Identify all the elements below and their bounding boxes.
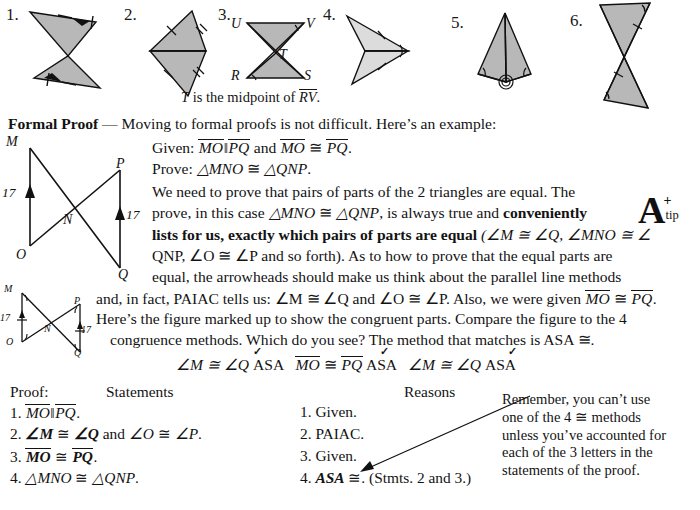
statement-3-segment-MO: MO	[25, 448, 51, 465]
formal-proof-intro: Moving to formal proofs is not difficult…	[122, 115, 497, 132]
marked-figure-length-right: 17	[81, 325, 91, 335]
asa-item3-AS: AS	[485, 356, 505, 373]
caption-point-T: T	[181, 89, 189, 105]
figure-2	[140, 8, 220, 100]
given-line: Given: MO‖PQ and MO ≅ PQ.	[152, 139, 352, 156]
main-figure-label-Q: Q	[118, 268, 128, 282]
given-period: .	[348, 139, 352, 156]
figure-5	[464, 10, 546, 90]
statement-4-triangle-QNP: △QNP	[92, 469, 135, 486]
para2-bold-conveniently: conveniently	[503, 204, 587, 221]
statement-1-num: 1.	[10, 404, 22, 421]
statement-4-triangle-MNO: △MNO	[25, 469, 71, 486]
statement-2-tail: .	[198, 425, 202, 442]
statements-header: Statements	[106, 383, 174, 401]
problem-number-3: 3.	[218, 6, 231, 23]
paragraph-line-8: congruence methods. Which do you see? Th…	[110, 332, 594, 348]
a-plus-tip-icon: A+tip	[638, 194, 687, 227]
remember-note-line-2: one of the 4 ≅ methods	[502, 409, 692, 427]
para6-end: .	[653, 290, 657, 307]
figure-3-caption: T is the midpoint of RV.	[181, 89, 320, 106]
formal-proof-heading-line: Formal Proof — Moving to formal proofs i…	[8, 116, 496, 132]
reason-1-num: 1.	[300, 403, 312, 420]
figure-3-label-S: S	[304, 69, 311, 83]
problem-number-1: 1.	[6, 6, 19, 23]
given-segment-PQ: PQ	[228, 139, 250, 156]
statement-4-tail: .	[135, 469, 139, 486]
para3-bold: lists for us, exactly which pairs of par…	[152, 226, 477, 243]
figure-3-label-V: V	[306, 17, 315, 31]
asa-item1-rest: SA	[264, 356, 283, 373]
statement-2-bold-angle-M: ∠M	[25, 425, 53, 442]
reason-row-1: 1. Given.	[300, 404, 357, 419]
asa-item2-segment-PQ: PQ	[341, 356, 363, 373]
main-figure-length-left: 17	[2, 186, 16, 200]
asa-item1-angles: ∠M ≅ ∠Q	[176, 356, 253, 373]
main-figure-label-M: M	[6, 135, 18, 149]
prove-cong: ≅	[243, 160, 264, 177]
statement-row-1: 1. MO‖PQ.	[10, 404, 80, 421]
statement-2-and: and	[99, 425, 129, 442]
figure-3-label-U: U	[231, 17, 241, 31]
marked-figure-label-M: M	[4, 284, 12, 294]
statement-row-2: 2. ∠M ≅ ∠Q and ∠O ≅ ∠P.	[10, 426, 202, 441]
tip-sublabel: tip	[665, 208, 678, 222]
reason-2-num: 2.	[300, 425, 312, 442]
para2-triangle-MNO: △MNO	[269, 204, 316, 221]
para3-rest: (∠M ≅ ∠Q, ∠MNO ≅ ∠	[477, 226, 650, 243]
given-segment-MO: MO	[198, 139, 223, 156]
asa-item2-cong: ≅	[320, 356, 341, 373]
asa-item2-checked-S: S	[377, 356, 386, 374]
congruence-symbol: ≅	[305, 139, 326, 156]
main-figure-length-right: 17	[126, 208, 140, 222]
statement-1-tail: .	[76, 404, 80, 421]
statement-3-cong: ≅	[51, 448, 72, 465]
statement-row-3: 3. MO ≅ PQ.	[10, 448, 97, 465]
asa-item1-checked-A: A	[253, 356, 264, 374]
remember-note-line-5: statements of the proof.	[502, 462, 692, 480]
asa-matching-row: ∠M ≅ ∠Q ASA MO ≅ PQ ASA ∠M ≅ ∠Q ASA	[176, 356, 516, 374]
statement-2-cong2: ≅	[154, 425, 175, 442]
statement-4-cong: ≅	[72, 469, 93, 486]
formal-proof-heading: Formal Proof	[8, 115, 98, 132]
statement-1-segment-PQ: PQ	[55, 404, 77, 421]
asa-item3-angles: ∠M ≅ ∠Q	[408, 356, 485, 373]
remember-note-line-1: Remember, you can’t use	[502, 391, 692, 409]
tip-superscript-plus: +	[663, 193, 671, 208]
caption-segment-RV: RV	[299, 89, 316, 105]
problem-number-2: 2.	[124, 6, 137, 23]
para6-segment-PQ: PQ	[631, 290, 653, 307]
statement-3-segment-PQ: PQ	[72, 448, 94, 465]
marked-figure-label-P: P	[74, 296, 80, 306]
tip-letter-A: A	[638, 189, 665, 231]
asa-item2-A: A	[366, 356, 377, 373]
para2-cong: ≅	[315, 204, 336, 221]
statement-2-bold-angle-Q: ∠Q	[74, 425, 99, 442]
paragraph-line-5: equal, the arrowheads should make us thi…	[152, 269, 621, 285]
statement-3-tail: .	[93, 448, 97, 465]
marked-figure-label-O: O	[6, 337, 13, 347]
para6-segment-MO: MO	[585, 290, 610, 307]
remember-note-line-3: unless you’ve accounted for	[502, 427, 692, 445]
statement-2-angle-P: ∠P	[175, 425, 198, 442]
para4-text: QNP, ∠O ≅ ∠P and so forth). As to how to…	[152, 247, 613, 264]
paragraph-line-3: lists for us, exactly which pairs of par…	[152, 227, 651, 243]
para6-cong: ≅	[610, 290, 631, 307]
statement-2-num: 2.	[10, 425, 22, 442]
statement-2-cong1: ≅	[53, 425, 74, 442]
given-and: and	[250, 139, 280, 156]
asa-item2-A2: A	[386, 356, 396, 373]
statement-2-angle-O: ∠O	[129, 425, 154, 442]
figure-3-label-R: R	[231, 69, 240, 83]
caption-midtext: is the midpoint of	[189, 89, 299, 105]
prove-triangle-MNO: △MNO	[197, 160, 244, 177]
figure-6	[594, 2, 666, 112]
proof-label: Proof:	[10, 383, 48, 401]
reason-row-3: 3. Given.	[300, 448, 357, 463]
statement-3-num: 3.	[10, 448, 22, 465]
main-figure-label-N: N	[63, 213, 72, 227]
reason-3-num: 3.	[300, 447, 312, 464]
reason-4-bold-ASA: ASA	[315, 469, 344, 486]
problem-number-6: 6.	[570, 12, 583, 29]
statement-row-4: 4. △MNO ≅ △QNP.	[10, 470, 139, 485]
